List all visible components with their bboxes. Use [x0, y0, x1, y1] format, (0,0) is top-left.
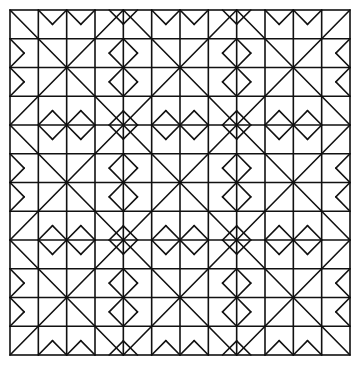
pattern-lines [10, 10, 350, 355]
star-quilt-pattern [0, 0, 360, 365]
